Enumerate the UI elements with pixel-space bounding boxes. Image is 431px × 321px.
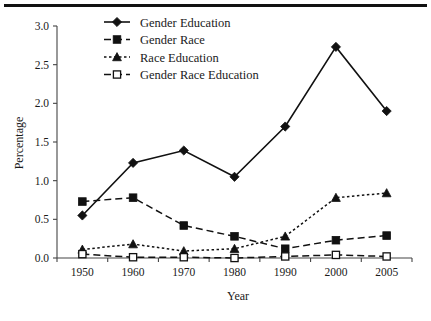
legend-marker-icon: [112, 17, 121, 26]
series-3: [78, 189, 391, 255]
legend-item-1[interactable]: Gender Education: [104, 16, 231, 30]
legend-item-2[interactable]: Gender Race: [104, 33, 205, 47]
data-point-marker: [383, 232, 391, 240]
chart-plot-area: 0.00.51.01.52.02.53.0 195019601970198019…: [0, 0, 431, 321]
x-tick-label: 1960: [122, 266, 145, 278]
data-point-marker: [180, 222, 188, 230]
y-tick-label: 3.0: [35, 20, 50, 32]
y-tick-label: 2.0: [35, 97, 50, 109]
x-tick-label: 2000: [324, 266, 347, 278]
data-point-marker: [281, 232, 290, 240]
data-point-marker: [332, 236, 340, 244]
y-axis-tick-labels: 0.00.51.01.52.02.53.0: [35, 20, 50, 264]
legend-label: Gender Education: [140, 16, 231, 30]
data-point-marker: [129, 254, 136, 261]
axis-group: 0.00.51.01.52.02.53.0 195019601970198019…: [35, 20, 412, 278]
data-point-marker: [231, 254, 238, 261]
data-point-marker: [79, 251, 86, 258]
line-chart-svg: 0.00.51.01.52.02.53.0 195019601970198019…: [0, 0, 431, 321]
legend-label: Race Education: [140, 51, 220, 65]
data-point-marker: [332, 251, 339, 258]
data-point-marker: [180, 254, 187, 261]
data-point-marker: [231, 233, 239, 241]
series-line: [82, 193, 386, 251]
data-point-marker: [383, 253, 390, 260]
y-tick-label: 0.0: [35, 252, 50, 264]
legend-item-4[interactable]: Gender Race Education: [104, 68, 259, 82]
legend-marker-icon: [113, 71, 120, 78]
data-point-marker: [179, 146, 188, 155]
legend-marker-icon: [113, 36, 121, 44]
y-tick-label: 1.0: [35, 175, 50, 187]
y-tick-label: 2.5: [35, 59, 50, 71]
y-axis-title: Percentage: [12, 117, 26, 170]
y-tick-label: 0.5: [35, 213, 50, 225]
y-axis-ticks: [53, 26, 57, 258]
figure-container: 0.00.51.01.52.02.53.0 195019601970198019…: [0, 0, 431, 321]
legend-label: Gender Race: [140, 33, 205, 47]
x-tick-label: 1980: [223, 266, 246, 278]
x-axis-tick-labels: 1950196019701980199020002005: [71, 266, 399, 278]
chart-legend: Gender EducationGender RaceRace Educatio…: [104, 16, 259, 83]
x-tick-label: 1990: [274, 266, 297, 278]
data-point-marker: [129, 240, 138, 248]
x-tick-label: 2005: [375, 266, 398, 278]
data-point-marker: [281, 245, 289, 253]
x-axis-title: Year: [227, 289, 249, 303]
data-point-marker: [129, 194, 137, 202]
y-tick-label: 1.5: [35, 136, 50, 148]
x-tick-label: 1970: [172, 266, 195, 278]
x-tick-label: 1950: [71, 266, 94, 278]
data-point-marker: [79, 198, 87, 206]
series-line: [82, 198, 386, 249]
legend-label: Gender Race Education: [140, 68, 259, 82]
legend-item-3[interactable]: Race Education: [104, 51, 220, 65]
data-point-marker: [282, 253, 289, 260]
